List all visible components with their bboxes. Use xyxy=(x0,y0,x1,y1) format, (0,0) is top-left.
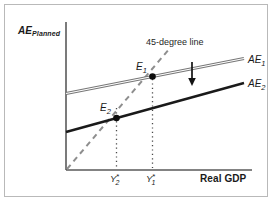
e2-label-main: E xyxy=(100,102,107,113)
e1-label-subscript: 1 xyxy=(143,66,147,75)
ae2-curve-label: AE2 xyxy=(248,79,266,89)
e2-label-subscript: 2 xyxy=(107,107,111,116)
x-tick-label-y1: Y*1 xyxy=(146,174,159,184)
ae1-label-main: AE xyxy=(248,54,261,65)
ae2-label-subscript: 2 xyxy=(261,83,265,92)
y-axis-label-subscript: Planned xyxy=(32,30,60,37)
e2-point-label: E2 xyxy=(100,103,111,113)
x-axis-label: Real GDP xyxy=(200,174,246,184)
x-tick-label-y2: Y*2 xyxy=(110,174,123,184)
e1-point-label: E1 xyxy=(136,62,147,72)
y-axis-label: AEPlanned xyxy=(18,26,60,36)
ae2-label-main: AE xyxy=(248,78,261,89)
y1-tick-subscript: 1 xyxy=(151,179,155,186)
e2-point-marker xyxy=(113,115,120,122)
e1-label-main: E xyxy=(136,61,143,72)
e1-point-marker xyxy=(149,73,156,80)
forty-five-degree-line-label: 45-degree line xyxy=(146,38,204,47)
ae1-label-subscript: 1 xyxy=(261,59,265,68)
y2-tick-subscript: 2 xyxy=(115,179,119,186)
shift-arrow-head-icon xyxy=(188,78,196,86)
figure-root: AEPlanned Real GDP 45-degree line AE1 AE… xyxy=(0,0,273,202)
ae1-curve-label: AE1 xyxy=(248,55,266,65)
ae2-curve xyxy=(66,83,244,132)
y-axis-label-main: AE xyxy=(18,25,32,36)
